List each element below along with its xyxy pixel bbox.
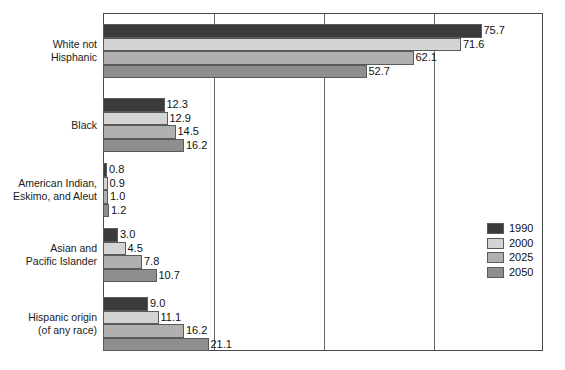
bar-value-4-1990: 9.0 — [150, 298, 165, 309]
bar-value-4-2025: 16.2 — [186, 325, 207, 336]
grouped-bar-chart: White notHisphanicBlackAmerican Indian,E… — [0, 0, 565, 370]
category-label-1: Black — [0, 119, 97, 132]
bar-3-1990 — [103, 228, 118, 242]
legend-swatch-1990 — [487, 223, 504, 234]
bar-1-2025 — [103, 125, 176, 139]
bar-value-0-2050: 52.7 — [369, 66, 390, 77]
legend-item-2000: 2000 — [487, 237, 543, 251]
legend-item-2025: 2025 — [487, 251, 543, 265]
category-label-line2: Eskimo, and Aleut — [0, 190, 97, 203]
legend-label-2050: 2050 — [509, 267, 533, 278]
category-label-line1: Black — [0, 119, 97, 132]
bar-2-2050 — [103, 204, 109, 218]
category-label-0: White notHisphanic — [0, 38, 97, 63]
bar-value-3-2050: 10.7 — [159, 270, 180, 281]
category-label-line2: Pacific Islander — [0, 255, 97, 268]
category-label-4: Hispanic origin(of any race) — [0, 311, 97, 336]
legend-label-2025: 2025 — [509, 252, 533, 263]
bar-3-2050 — [103, 269, 157, 283]
bar-value-1-2050: 16.2 — [186, 140, 207, 151]
bar-0-2025 — [103, 51, 414, 65]
legend: 1990200020252050 — [487, 222, 543, 280]
bar-value-1-2025: 14.5 — [178, 126, 199, 137]
category-label-line2: Hisphanic — [0, 51, 97, 64]
category-label-line1: American Indian, — [0, 177, 97, 190]
bar-2-1990 — [103, 163, 107, 177]
bar-value-2-1990: 0.8 — [109, 164, 124, 175]
bar-0-2050 — [103, 65, 367, 79]
bar-value-1-1990: 12.3 — [167, 99, 188, 110]
legend-item-2050: 2050 — [487, 266, 543, 280]
bar-4-2025 — [103, 324, 184, 338]
bar-3-2025 — [103, 255, 142, 269]
bar-value-2-2050: 1.2 — [111, 205, 126, 216]
bar-1-2000 — [103, 112, 168, 126]
bar-value-3-2025: 7.8 — [144, 256, 159, 267]
bar-2-2000 — [103, 177, 108, 191]
legend-label-1990: 1990 — [509, 223, 533, 234]
legend-label-2000: 2000 — [509, 238, 533, 249]
bar-4-2050 — [103, 338, 209, 352]
bar-value-1-2000: 12.9 — [170, 113, 191, 124]
category-label-2: American Indian,Eskimo, and Aleut — [0, 177, 97, 202]
legend-swatch-2025 — [487, 252, 504, 263]
bar-value-2-2000: 0.9 — [110, 178, 125, 189]
bar-3-2000 — [103, 242, 126, 256]
bar-value-0-2025: 62.1 — [416, 52, 437, 63]
category-label-line2: (of any race) — [0, 324, 97, 337]
gridline-66 — [434, 14, 435, 350]
bar-value-0-1990: 75.7 — [484, 25, 505, 36]
bar-value-0-2000: 71.6 — [463, 39, 484, 50]
bar-2-2025 — [103, 190, 108, 204]
legend-swatch-2050 — [487, 267, 504, 278]
bar-1-2050 — [103, 139, 184, 153]
bar-value-4-2000: 11.1 — [161, 312, 182, 323]
bar-4-1990 — [103, 297, 148, 311]
category-label-line1: White not — [0, 38, 97, 51]
bar-0-2000 — [103, 38, 461, 52]
bar-4-2000 — [103, 311, 159, 325]
bar-0-1990 — [103, 24, 482, 38]
bar-value-4-2050: 21.1 — [211, 339, 232, 350]
bar-value-2-2025: 1.0 — [110, 191, 125, 202]
bar-value-3-2000: 4.5 — [128, 243, 143, 254]
bar-1-1990 — [103, 98, 165, 112]
bar-value-3-1990: 3.0 — [120, 229, 135, 240]
category-label-line1: Asian and — [0, 242, 97, 255]
legend-item-1990: 1990 — [487, 222, 543, 236]
legend-swatch-2000 — [487, 238, 504, 249]
category-label-line1: Hispanic origin — [0, 311, 97, 324]
category-label-3: Asian andPacific Islander — [0, 242, 97, 267]
